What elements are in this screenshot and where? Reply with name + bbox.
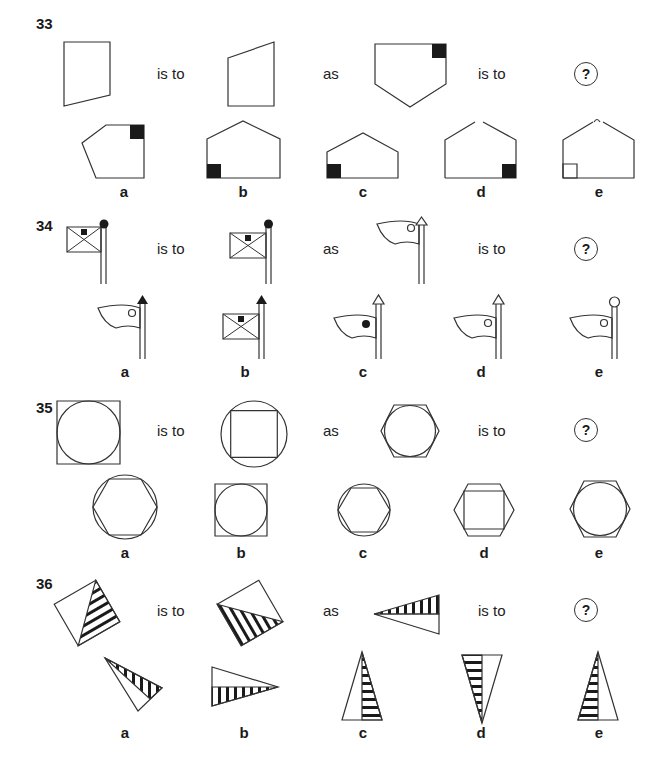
q33-option-a[interactable] [82,125,152,185]
unknown-answer-badge: ? [574,62,598,86]
option-label-a: a [115,544,135,561]
unknown-answer-badge: ? [574,598,598,622]
option-label-e: e [589,183,609,200]
q36-stem-shape-1 [52,578,122,648]
q35-option-b[interactable] [214,483,268,537]
q33-option-d[interactable] [445,120,520,185]
q36-stem-shape-2 [215,578,285,648]
q33-stem-shape-3 [372,40,452,110]
q36-stem-shape-3 [372,593,442,635]
q34-option-e[interactable] [568,295,628,363]
as-text: as [323,240,339,257]
q36-option-c[interactable] [342,650,386,722]
q34-option-b[interactable] [221,295,271,363]
q35-option-a[interactable] [92,474,158,540]
option-label-d: d [474,544,494,561]
q35-option-c[interactable] [337,483,391,537]
option-label-d: d [471,724,491,741]
is-to-text: is to [157,602,185,619]
q36-option-a[interactable] [100,655,170,725]
as-text: as [323,602,339,619]
q36-option-d[interactable] [462,653,506,725]
option-label-a: a [115,724,135,741]
is-to-text: is to [157,422,185,439]
is-to-text: is to [157,240,185,257]
question-number: 34 [36,217,53,234]
q33-stem-shape-2 [225,40,285,110]
q35-stem-shape-3 [380,403,440,459]
is-to-text: is to [478,422,506,439]
is-to-text: is to [157,65,185,82]
q33-option-b[interactable] [207,125,282,185]
q34-stem-shape-1 [65,220,110,285]
is-to-text: is to [478,602,506,619]
unknown-answer-badge: ? [574,418,598,442]
as-text: as [323,65,339,82]
option-label-c: c [353,363,373,380]
option-label-d: d [471,363,491,380]
q36-option-e[interactable] [578,650,622,722]
question-number: 36 [36,575,53,592]
question-number: 35 [36,399,53,416]
option-label-c: c [353,544,373,561]
q35-stem-shape-1 [56,400,122,466]
option-label-a: a [114,183,134,200]
q33-option-e[interactable] [563,120,638,185]
option-label-e: e [589,544,609,561]
as-text: as [323,422,339,439]
q35-option-d[interactable] [453,483,515,537]
unknown-answer-badge: ? [574,237,598,261]
option-label-b: b [231,544,251,561]
is-to-text: is to [478,240,506,257]
q34-stem-shape-2 [228,220,278,285]
option-label-b: b [234,724,254,741]
q34-option-c[interactable] [332,295,392,363]
is-to-text: is to [478,65,506,82]
option-label-e: e [589,363,609,380]
q34-option-d[interactable] [452,295,512,363]
q35-option-e[interactable] [569,480,631,538]
q36-option-b[interactable] [210,665,282,707]
q34-option-a[interactable] [96,295,156,363]
option-label-e: e [589,724,609,741]
option-label-a: a [115,363,135,380]
q34-stem-shape-3 [375,218,435,286]
option-label-c: c [353,724,373,741]
question-number: 33 [36,15,53,32]
q33-stem-shape-1 [60,40,120,110]
option-label-b: b [235,363,255,380]
option-label-c: c [353,183,373,200]
q33-option-c[interactable] [327,125,402,185]
option-label-b: b [233,183,253,200]
option-label-d: d [471,183,491,200]
q35-stem-shape-2 [220,400,288,468]
